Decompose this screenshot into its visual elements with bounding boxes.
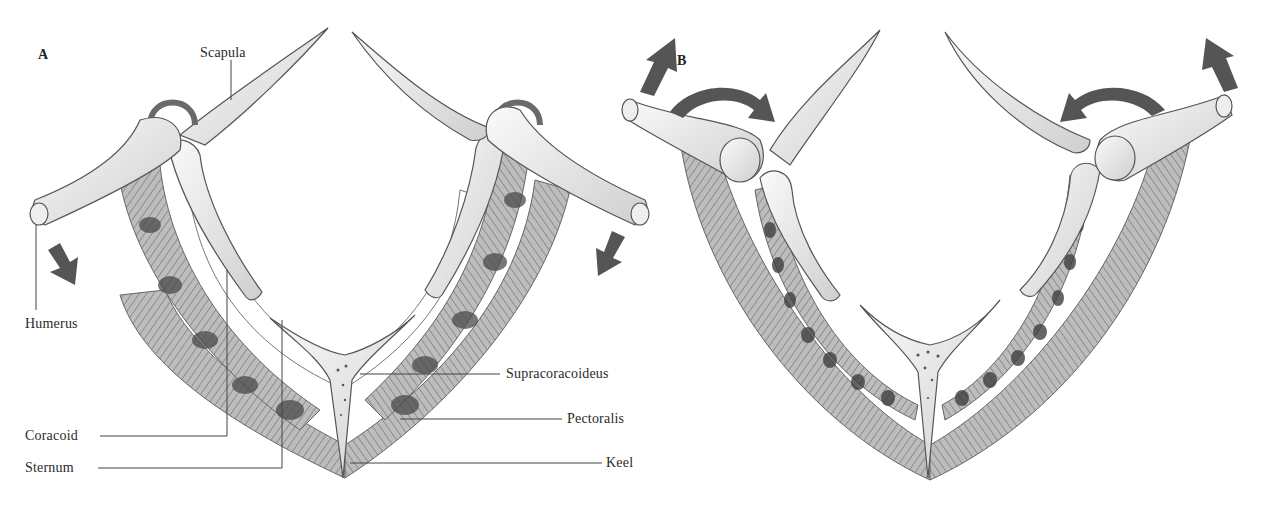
panel-a — [30, 28, 649, 478]
label-scapula: Scapula — [200, 45, 246, 61]
flight-apparatus-diagram: A B Scapula Humerus Coracoid Sternum Sup… — [0, 0, 1264, 505]
panel-a-letter: A — [38, 47, 48, 63]
humeral-head-left-b — [720, 138, 760, 182]
panel-b — [622, 30, 1238, 480]
scapula-bone-right-b — [945, 32, 1090, 153]
scapula-bone-right-a — [352, 32, 490, 141]
label-keel: Keel — [606, 455, 633, 471]
humerus-end-left-a — [30, 203, 48, 225]
left-humerus-up-arrow-icon — [640, 38, 677, 96]
pectoralis-muscle-right-b — [930, 140, 1190, 480]
label-pectoralis: Pectoralis — [567, 411, 624, 427]
left-humerus-down-arrow-icon — [48, 243, 78, 285]
right-humerus-up-arrow-icon — [1202, 38, 1238, 92]
humeral-head-right-b — [1095, 136, 1135, 180]
label-coracoid: Coracoid — [25, 428, 78, 444]
right-humerus-down-arrow-icon — [596, 231, 625, 276]
humerus-end-left-b — [622, 99, 638, 121]
humerus-end-right-a — [631, 203, 649, 225]
scapula-bone-left-b — [770, 30, 880, 165]
label-supracoracoideus: Supracoracoideus — [506, 366, 609, 382]
label-sternum: Sternum — [25, 460, 74, 476]
humerus-end-right-b — [1216, 95, 1232, 117]
label-humerus: Humerus — [25, 316, 78, 332]
panel-b-letter: B — [677, 53, 686, 69]
